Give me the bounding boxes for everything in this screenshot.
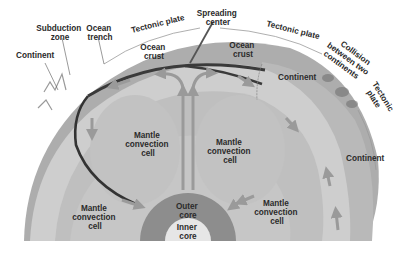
label-subduction-zone: Subduction zone <box>36 24 83 42</box>
label-continent-upper-right: Continent <box>278 73 316 82</box>
plate-tectonics-diagram: Continent Subduction zone Ocean trench T… <box>0 0 396 253</box>
label-inner-core: Inner core <box>177 223 199 241</box>
convection-cell-center-left-shape <box>90 95 180 205</box>
label-continent-left: Continent <box>16 51 54 60</box>
label-tectonic-plate-2: Tectonic plate <box>266 19 321 41</box>
label-continent-right: Continent <box>346 154 384 163</box>
label-outer-core: Outer core <box>176 202 200 220</box>
label-tectonic-plate-3: Tectonic plate <box>363 80 396 120</box>
label-ocean-crust-left: Ocean crust <box>140 43 167 61</box>
label-ocean-trench: Ocean trench <box>86 24 113 42</box>
label-ocean-crust-right: Ocean crust <box>229 41 256 59</box>
left-continent-mountains <box>38 74 66 110</box>
label-tectonic-plate-1: Tectonic plate <box>130 13 185 35</box>
label-spreading-center: Spreading center <box>197 9 239 27</box>
pointer-lines <box>45 37 104 90</box>
